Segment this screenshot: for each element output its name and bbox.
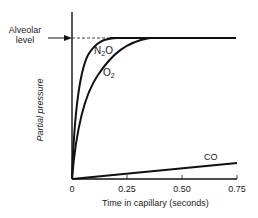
o2-label-o: O: [103, 67, 111, 78]
x-tick-label-025: 0.25: [118, 184, 136, 194]
x-tick-label-050: 0.50: [173, 184, 191, 194]
co-label: CO: [204, 152, 218, 162]
alveolar-level-label: Alveolar level: [4, 25, 46, 45]
arrow-right-icon: [64, 35, 72, 41]
o2-curve: [72, 38, 150, 179]
y-axis-label: Partial pressure: [35, 78, 45, 141]
diffusion-chart: Alveolar level Partial pressure N2O O2 C…: [0, 0, 258, 218]
alveolar-line1: Alveolar: [4, 25, 46, 35]
o2-label-sub: 2: [111, 72, 115, 79]
n2o-label: N2O: [94, 45, 113, 57]
o2-label: O2: [103, 67, 115, 79]
alveolar-line2: level: [4, 35, 46, 45]
x-tick-label-0: 0: [69, 184, 74, 194]
x-tick-label-075: 0.75: [228, 184, 246, 194]
n2o-label-o: O: [105, 45, 113, 56]
co-line: [72, 163, 237, 179]
x-axis-label: Time in capillary (seconds): [102, 198, 209, 208]
